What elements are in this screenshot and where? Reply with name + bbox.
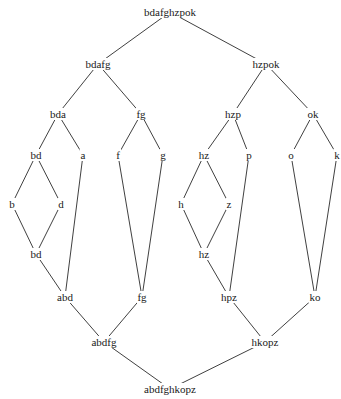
node-label: bd xyxy=(30,248,43,260)
edge-n12-n23 xyxy=(229,155,249,297)
node-label: hz xyxy=(198,248,210,260)
node-label: a xyxy=(80,149,87,161)
edge-n11-n18 xyxy=(204,155,229,204)
edge-n10-n22 xyxy=(142,155,163,297)
node-label: z xyxy=(226,198,233,210)
edge-n2-n5 xyxy=(233,64,266,114)
node-label: hpz xyxy=(220,291,238,303)
node-label: p xyxy=(245,149,253,161)
node-label: hz xyxy=(198,149,210,161)
edge-n7-n15 xyxy=(12,155,36,204)
node-label: g xyxy=(159,149,167,161)
edge-n0-n2 xyxy=(170,12,266,64)
edge-n17-n20 xyxy=(181,204,204,254)
node-label: f xyxy=(115,149,121,161)
edge-n13-n24 xyxy=(291,155,315,297)
node-label: k xyxy=(333,149,341,161)
node-label: b xyxy=(8,198,16,210)
node-label: hzpok xyxy=(252,58,281,70)
node-label: fg xyxy=(136,291,147,303)
edge-n15-n19 xyxy=(12,204,36,254)
node-label: ko xyxy=(309,291,322,303)
node-label: hzp xyxy=(224,108,242,120)
node-label: abdfg xyxy=(90,336,117,348)
edge-n0-n1 xyxy=(98,12,170,64)
node-label: bdafg xyxy=(84,58,111,70)
edge-n11-n17 xyxy=(181,155,204,204)
edge-n4-n9 xyxy=(118,114,141,155)
edge-layer xyxy=(0,0,341,399)
edge-n14-n24 xyxy=(315,155,337,297)
node-label: bda xyxy=(49,108,67,120)
node-label: h xyxy=(177,198,185,210)
edge-n9-n22 xyxy=(118,155,142,297)
node-label: abd xyxy=(56,291,74,303)
node-label: o xyxy=(287,149,295,161)
edge-n18-n20 xyxy=(204,204,229,254)
edge-n16-n19 xyxy=(36,204,61,254)
node-label: bd xyxy=(30,149,43,161)
node-label: ok xyxy=(307,108,320,120)
node-label: hkopz xyxy=(251,336,280,348)
lattice-diagram: bdafghzpokbdafghzpokbdafghzpokbdafghzpok… xyxy=(0,0,341,399)
edge-n8-n21 xyxy=(65,155,83,297)
node-label: d xyxy=(57,198,65,210)
node-label: fg xyxy=(135,108,146,120)
edge-n2-n6 xyxy=(266,64,313,114)
edge-n1-n3 xyxy=(58,64,98,114)
edge-n26-n27 xyxy=(170,342,265,389)
node-label: bdafghzpok xyxy=(143,6,197,18)
edge-n1-n4 xyxy=(98,64,141,114)
node-label: abdfghkopz xyxy=(143,383,197,395)
edge-n25-n27 xyxy=(104,342,170,389)
edge-n7-n16 xyxy=(36,155,61,204)
